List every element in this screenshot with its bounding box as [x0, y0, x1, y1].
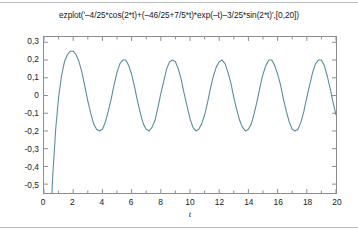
- y-tick-label: -0,4: [3, 163, 39, 172]
- x-tick-label: 18: [296, 198, 320, 207]
- tick-marks: [44, 37, 336, 193]
- x-tick-label: 12: [207, 198, 231, 207]
- y-tick-label: -0,3: [3, 145, 39, 154]
- plot-title: ezplot('–4/25*cos(2*t)+(–46/25+7/5*t)*ex…: [0, 10, 358, 21]
- plot-axes: [43, 36, 337, 194]
- figure-page: ezplot('–4/25*cos(2*t)+(–46/25+7/5*t)*ex…: [0, 0, 358, 239]
- x-tick-label: 16: [266, 198, 290, 207]
- x-tick-label: 20: [325, 198, 349, 207]
- bottom-divider: [0, 227, 358, 228]
- y-tick-label: 0,2: [3, 55, 39, 64]
- x-tick-label: 14: [237, 198, 261, 207]
- y-tick-label: -0,1: [3, 109, 39, 118]
- x-tick-label: 10: [178, 198, 202, 207]
- x-tick-label: 0: [31, 198, 55, 207]
- y-tick-label: 0,3: [3, 37, 39, 46]
- y-tick-label: -0,2: [3, 127, 39, 136]
- top-divider: [0, 2, 358, 3]
- x-tick-label: 2: [60, 198, 84, 207]
- plot-canvas: [44, 37, 336, 193]
- x-tick-label: 4: [90, 198, 114, 207]
- y-tick-label: -0,5: [3, 181, 39, 190]
- x-tick-label: 8: [149, 198, 173, 207]
- y-tick-label: 0,1: [3, 73, 39, 82]
- plot-figure: 0,30,20,10-0,1-0,2-0,3-0,4-0,5 024681012…: [0, 26, 358, 222]
- x-tick-label: 6: [119, 198, 143, 207]
- y-tick-label: 0: [3, 91, 39, 100]
- data-curve: [44, 51, 336, 193]
- x-axis-label: t: [43, 209, 337, 219]
